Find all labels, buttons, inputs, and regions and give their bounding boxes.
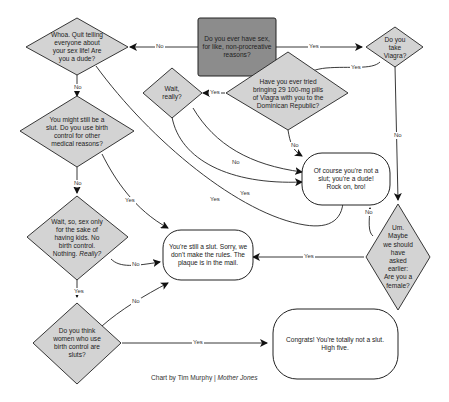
label-female-yes: Yes xyxy=(303,253,315,260)
female-node: Um. Maybe we should have asked earlier: … xyxy=(383,228,413,286)
label-dude-yes: Yes xyxy=(209,196,221,203)
label-start-no: No xyxy=(155,43,165,50)
label-dominican-yes: Yes xyxy=(209,89,221,96)
medical-node: You might still be a slut. Do you use bi… xyxy=(46,114,108,150)
slut-node: You're still a slut. Sorry, we don't mak… xyxy=(168,234,248,276)
viagra-node: Do you take Viagra? xyxy=(380,37,410,59)
label-viagra-yes: Yes xyxy=(350,64,362,71)
really-node: Wait, really? xyxy=(158,84,186,102)
dude-node: Whoa. Quit telling everyone about your s… xyxy=(48,30,106,64)
chart-credit: Chart by Tim Murphy | Mother Jones xyxy=(151,374,258,381)
label-think-no: No xyxy=(131,298,141,305)
label-dominican-no: No xyxy=(290,142,300,149)
kids-node-main: Wait, so, sex only for the sake of havin… xyxy=(50,218,104,259)
label-kids-no: No xyxy=(131,261,141,268)
label-really-yes: Yes xyxy=(239,190,251,197)
label-viagra-no: No xyxy=(393,132,403,139)
start-node: Do you ever have sex, for like, non-proc… xyxy=(202,20,272,74)
label-female-no: No xyxy=(364,209,374,216)
kids-node: Wait, so, sex only for the sake of havin… xyxy=(50,218,104,258)
think-node: Do you think women who use birth control… xyxy=(52,326,102,360)
label-think-yes: Yes xyxy=(192,339,204,346)
label-dude-no: No xyxy=(73,84,83,91)
congrats-node: Congrats! You're totally not a slut. Hig… xyxy=(285,330,385,358)
label-medical-yes: Yes xyxy=(124,197,136,204)
label-kids-yes: Yes xyxy=(73,288,85,295)
dominican-node: Have you ever tried bringing 29 100-mg p… xyxy=(252,73,324,115)
label-medical-no: No xyxy=(73,180,83,187)
label-start-yes: Yes xyxy=(308,43,320,50)
bro-node: Of course you're not a slut; you're a du… xyxy=(310,158,382,200)
label-really-no: No xyxy=(231,159,241,166)
edge-medical-slut xyxy=(102,154,168,228)
